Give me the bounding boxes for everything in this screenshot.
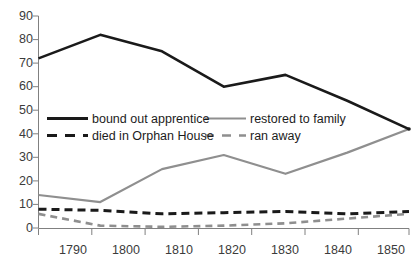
legend-label-bound-out-apprentice: bound out apprentice — [92, 112, 209, 126]
legend-label-ran-away: ran away — [250, 129, 301, 143]
line-chart: 90 80 70 60 50 40 30 20 10 0 1790 1800 1… — [0, 0, 418, 270]
legend-label-died-in-orphan-house: died in Orphan House — [92, 129, 214, 143]
legend: bound out apprentice restored to family … — [0, 0, 418, 270]
legend-label-restored-to-family: restored to family — [250, 112, 346, 126]
